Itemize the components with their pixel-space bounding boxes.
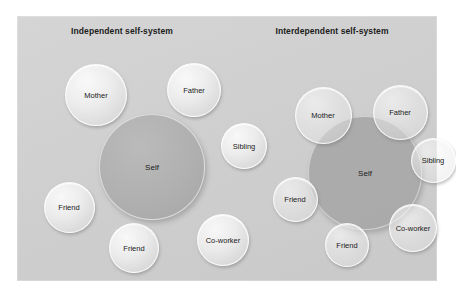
node-interdependent-sibling-3: Sibling	[411, 138, 456, 183]
node-independent-friend-4: Friend	[44, 182, 95, 233]
node-interdependent-friend-5: Friend	[325, 223, 369, 267]
node-label: Sibling	[233, 142, 256, 151]
node-label: Co-worker	[206, 236, 241, 245]
node-label: Friend	[58, 203, 79, 212]
node-independent-co-worker-6: Co-worker	[197, 214, 249, 266]
node-label: Friend	[123, 244, 144, 253]
node-interdependent-co-worker-6: Co-worker	[389, 204, 437, 252]
node-interdependent-father-2: Father	[373, 85, 428, 140]
node-independent-self-0: Self	[99, 114, 205, 220]
node-independent-sibling-3: Sibling	[221, 123, 267, 169]
node-interdependent-friend-4: Friend	[273, 177, 318, 222]
panel-title-independent: Independent self-system	[17, 26, 227, 36]
node-label: Mother	[84, 91, 107, 100]
node-label: Father	[183, 86, 205, 95]
node-interdependent-mother-1: Mother	[295, 87, 352, 144]
diagram-plate: Independent self-system Interdependent s…	[17, 16, 437, 281]
node-independent-father-2: Father	[167, 63, 221, 117]
node-label: Father	[389, 108, 411, 117]
node-independent-mother-1: Mother	[65, 64, 127, 126]
node-label: Self	[145, 163, 159, 172]
node-label: Self	[358, 169, 372, 178]
node-independent-friend-5: Friend	[109, 223, 159, 273]
node-label: Mother	[311, 111, 334, 120]
node-label: Co-worker	[396, 224, 431, 233]
panel-title-interdependent: Interdependent self-system	[227, 26, 437, 36]
node-label: Sibling	[422, 156, 445, 165]
node-label: Friend	[336, 241, 357, 250]
node-label: Friend	[284, 195, 305, 204]
